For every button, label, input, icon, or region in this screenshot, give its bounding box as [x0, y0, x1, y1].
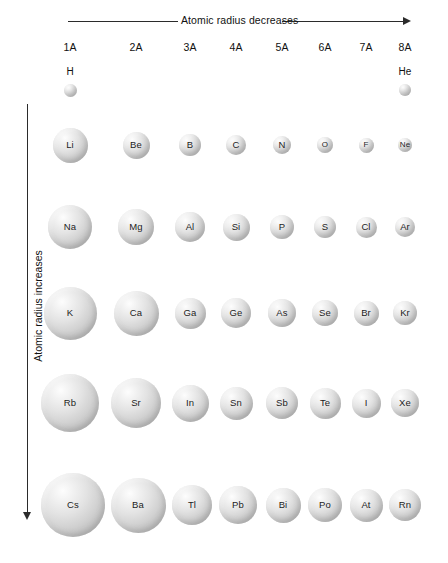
element-symbol-ca: Ca	[130, 308, 142, 318]
element-symbol-al: Al	[186, 222, 195, 232]
element-symbol-s: S	[322, 222, 328, 232]
element-sphere-rn: Rn	[389, 489, 421, 521]
top-axis-label: Atomic radius decreases	[181, 14, 281, 26]
right-arrowhead-icon	[403, 17, 411, 25]
group-label-2a: 2A	[116, 41, 156, 53]
element-symbol-xe: Xe	[399, 398, 411, 408]
element-symbol-b: B	[187, 140, 193, 150]
element-sphere-po: Po	[308, 488, 342, 522]
element-symbol-si: Si	[232, 222, 241, 232]
element-sphere-pb: Pb	[219, 486, 257, 524]
element-symbol-ar: Ar	[400, 222, 410, 232]
element-sphere-se: Se	[312, 300, 338, 326]
element-sphere-cl: Cl	[356, 217, 377, 238]
group-label-4a: 4A	[216, 41, 256, 53]
element-sphere-f: F	[359, 138, 374, 153]
element-sphere-te: Te	[310, 388, 341, 419]
element-sphere-al: Al	[175, 212, 205, 242]
element-symbol-na: Na	[64, 222, 76, 232]
element-symbol-he: He	[385, 66, 425, 77]
left-axis-label: Atomic radius increases	[32, 206, 44, 406]
element-symbol-ga: Ga	[184, 308, 197, 318]
element-symbol-rn: Rn	[399, 500, 411, 510]
element-symbol-te: Te	[320, 398, 330, 408]
top-axis-line-left	[68, 21, 178, 22]
element-symbol-br: Br	[361, 308, 371, 318]
left-axis: Atomic radius increases	[0, 0, 60, 563]
element-sphere-i: I	[352, 389, 381, 418]
element-sphere-s: S	[314, 216, 336, 238]
element-sphere-be: Be	[123, 132, 150, 159]
element-symbol-se: Se	[319, 308, 331, 318]
down-arrowhead-icon	[23, 512, 31, 520]
element-symbol-pb: Pb	[232, 500, 244, 510]
element-symbol-ge: Ge	[230, 308, 243, 318]
element-sphere-in: In	[172, 385, 209, 422]
element-sphere-cs: Cs	[41, 473, 105, 537]
group-label-8a: 8A	[385, 41, 425, 53]
element-symbol-k: K	[67, 308, 73, 318]
element-sphere-tl: Tl	[172, 485, 212, 525]
element-sphere-kr: Kr	[393, 301, 417, 325]
element-symbol-bi: Bi	[279, 500, 288, 510]
element-sphere-br: Br	[354, 301, 379, 326]
element-symbol-ne: Ne	[400, 141, 410, 149]
element-sphere-ba: Ba	[111, 478, 166, 533]
element-sphere-mg: Mg	[118, 209, 154, 245]
element-sphere-na: Na	[48, 205, 92, 249]
element-symbol-be: Be	[130, 140, 142, 150]
element-symbol-i: I	[365, 398, 368, 408]
element-sphere-sr: Sr	[111, 378, 161, 428]
element-symbol-at: At	[361, 500, 370, 510]
element-sphere-b: B	[179, 134, 201, 156]
element-symbol-sb: Sb	[276, 398, 288, 408]
element-symbol-cs: Cs	[67, 500, 79, 510]
element-symbol-c: C	[233, 140, 240, 150]
element-sphere-n: N	[273, 136, 291, 154]
element-sphere-o: O	[317, 137, 333, 153]
element-sphere-ar: Ar	[395, 217, 415, 237]
element-symbol-sn: Sn	[230, 398, 242, 408]
group-label-3a: 3A	[170, 41, 210, 53]
element-symbol-in: In	[186, 398, 194, 408]
element-sphere-at: At	[350, 489, 383, 522]
element-symbol-sr: Sr	[131, 398, 141, 408]
element-sphere-xe: Xe	[391, 389, 419, 417]
element-sphere-as: As	[268, 299, 296, 327]
element-sphere-c: C	[226, 135, 246, 155]
element-symbol-cl: Cl	[361, 222, 370, 232]
element-sphere-k: K	[44, 287, 97, 340]
element-symbol-f: F	[364, 141, 369, 149]
element-symbol-li: Li	[66, 140, 74, 150]
element-symbol-o: O	[322, 141, 328, 149]
element-symbol-ba: Ba	[132, 500, 144, 510]
group-label-7a: 7A	[346, 41, 386, 53]
element-sphere-p: P	[270, 215, 294, 239]
element-symbol-rb: Rb	[64, 398, 76, 408]
group-label-6a: 6A	[305, 41, 345, 53]
element-symbol-kr: Kr	[400, 308, 410, 318]
element-sphere-sn: Sn	[220, 387, 253, 420]
element-sphere-h	[64, 84, 77, 97]
element-symbol-mg: Mg	[129, 222, 142, 232]
top-axis: Atomic radius decreases	[0, 0, 448, 34]
element-sphere-bi: Bi	[266, 488, 301, 523]
element-symbol-as: As	[276, 308, 287, 318]
element-sphere-sb: Sb	[266, 387, 298, 419]
element-symbol-tl: Tl	[188, 500, 196, 510]
element-symbol-p: P	[279, 222, 285, 232]
element-sphere-si: Si	[223, 214, 250, 241]
left-axis-line	[27, 104, 28, 514]
element-symbol-h: H	[50, 66, 90, 77]
top-axis-line-right	[282, 21, 404, 22]
element-symbol-po: Po	[319, 500, 331, 510]
element-sphere-ge: Ge	[221, 298, 251, 328]
element-sphere-rb: Rb	[41, 374, 99, 432]
element-sphere-he	[399, 84, 411, 96]
element-sphere-ne: Ne	[398, 138, 412, 152]
group-label-row: 1A2A3A4A5A6A7A8A	[0, 41, 448, 55]
atomic-radius-diagram: Atomic radius decreases 1A2A3A4A5A6A7A8A…	[0, 0, 448, 563]
element-sphere-li: Li	[53, 128, 88, 163]
element-sphere-ca: Ca	[114, 291, 159, 336]
element-symbol-n: N	[279, 140, 286, 150]
